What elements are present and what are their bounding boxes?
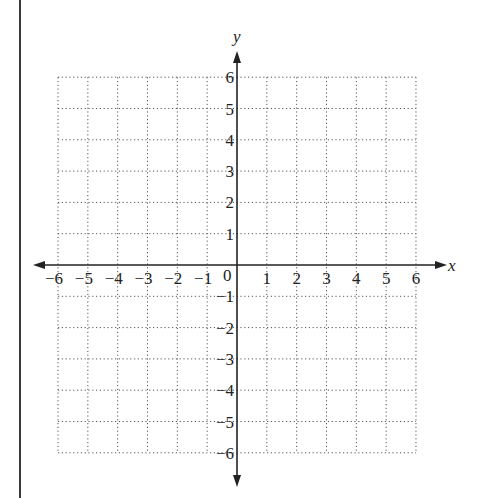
x-tick-labels: −6−5−4−3−2−1123456	[45, 269, 420, 288]
x-tick-label: −6	[45, 269, 63, 288]
x-tick-label: 4	[352, 269, 361, 288]
coordinate-plane: x y 0 −6−5−4−3−2−1123456 654321−1−2−3−4−…	[0, 0, 482, 498]
x-tick-label: −4	[105, 269, 124, 288]
y-axis-label: y	[231, 27, 241, 46]
x-tick-label: −3	[134, 269, 152, 288]
x-tick-label: 2	[292, 269, 301, 288]
y-tick-label: 4	[226, 131, 235, 150]
origin-label: 0	[223, 266, 232, 285]
x-tick-label: 6	[412, 269, 421, 288]
x-tick-label: 1	[263, 269, 272, 288]
y-tick-label: 5	[226, 100, 235, 119]
y-axis-up-arrow-icon	[233, 51, 241, 63]
x-tick-label: −2	[164, 269, 182, 288]
y-tick-label: −3	[216, 350, 234, 369]
x-axis-right-arrow-icon	[435, 261, 447, 269]
y-tick-label: −2	[216, 319, 234, 338]
x-axis-left-arrow-icon	[33, 261, 45, 269]
y-axis-down-arrow-icon	[233, 475, 241, 487]
x-tick-label: −5	[75, 269, 93, 288]
y-tick-label: −5	[216, 413, 234, 432]
y-tick-label: −4	[216, 381, 235, 400]
x-tick-label: −1	[194, 269, 212, 288]
y-tick-label: −6	[216, 444, 234, 463]
y-tick-label: 3	[226, 162, 235, 181]
y-tick-label: 2	[226, 193, 235, 212]
x-tick-label: 3	[322, 269, 331, 288]
x-axis-label: x	[447, 256, 456, 275]
y-tick-label: 6	[226, 68, 235, 87]
y-tick-label: −1	[216, 287, 234, 306]
x-tick-label: 5	[382, 269, 391, 288]
y-tick-label: 1	[226, 225, 235, 244]
